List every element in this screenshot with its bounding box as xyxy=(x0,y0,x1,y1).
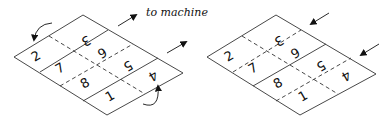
svg-text:6: 6 xyxy=(288,44,303,61)
svg-text:3: 3 xyxy=(272,32,287,49)
panel-4: 4 xyxy=(146,67,161,84)
right-arrows xyxy=(311,13,379,55)
right-sheet-numbers: 3 6 2 7 5 4 8 1 xyxy=(221,32,353,104)
svg-text:2: 2 xyxy=(221,48,236,65)
svg-text:7: 7 xyxy=(245,60,260,77)
panel-7: 7 xyxy=(52,60,67,77)
left-sheet-numbers: 3 6 2 7 5 4 8 1 xyxy=(28,32,160,104)
svg-text:5: 5 xyxy=(314,57,329,74)
panel-6: 6 xyxy=(95,44,110,61)
svg-text:4: 4 xyxy=(339,67,354,84)
to-machine-label: to machine xyxy=(146,6,208,19)
panel-2: 2 xyxy=(28,48,43,65)
panel-5: 5 xyxy=(121,57,136,74)
right-sheet xyxy=(207,15,376,115)
arrow-in-icon xyxy=(311,13,329,24)
left-sheet xyxy=(14,15,183,115)
svg-text:1: 1 xyxy=(295,88,310,105)
arrow-to-machine-icon xyxy=(167,42,186,53)
arrow-to-machine-icon xyxy=(118,15,136,26)
arrow-in-icon xyxy=(361,44,379,55)
curl-arrow-icon xyxy=(34,23,52,40)
panel-1: 1 xyxy=(102,88,117,105)
panel-8: 8 xyxy=(77,75,92,92)
svg-text:8: 8 xyxy=(270,75,285,92)
curl-arrow-icon xyxy=(143,86,158,105)
